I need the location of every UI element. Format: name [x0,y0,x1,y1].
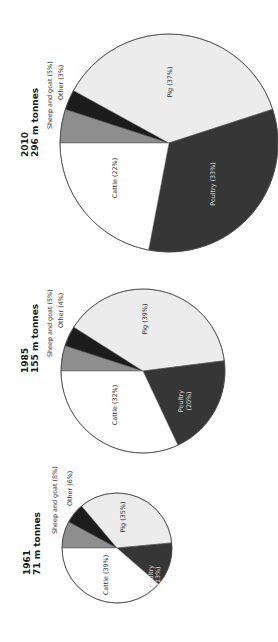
label-pig-1985: Pig (39%) [141,304,149,335]
chart-title-total-2010: 296 m tonnes [30,88,40,157]
label-pig-2010: Pig (37%) [166,67,174,98]
label-poultry-1985-line2: (20%) [185,391,193,410]
pie-chart-1985: 1985 155 m tonnes Sheep and goat (5%) Ot… [20,289,225,453]
label-other-1961: Other (6%) [66,471,74,506]
chart-title-total-1985: 155 m tonnes [30,304,40,373]
chart-title-year-2010: 2010 [20,132,30,157]
label-poultry-2010: Poultry (33%) [209,162,217,206]
label-sheep-goat-1961: Sheep and goat (8%) [51,466,59,534]
chart-title-year-1985: 1985 [20,348,30,373]
meat-production-pie-figure: 2010 296 m tonnes Sheep and goat (5%) Ot… [0,0,278,642]
label-other-2010: Other (3%) [57,65,65,100]
pie-chart-2010: 2010 296 m tonnes Sheep and goat (5%) Ot… [20,34,278,252]
pie-chart-1961: 1961 71 m tonnes Sheep and goat (8%) Oth… [22,466,172,603]
label-other-1985: Other (4%) [57,293,65,328]
chart-title-total-1961: 71 m tonnes [32,512,42,575]
label-poultry-1961-line2: (13%) [154,566,162,585]
label-cattle-1961: Cattle (39%) [102,555,110,595]
label-sheep-goat-1985: Sheep and goat (5%) [46,289,54,357]
label-cattle-2010: Cattle (22%) [111,158,119,198]
label-cattle-1985: Cattle (32%) [111,385,119,425]
label-sheep-goat-2010: Sheep and goat (5%) [46,61,54,129]
label-pig-1961: Pig (35%) [119,502,127,533]
chart-title-year-1961: 1961 [22,550,32,575]
label-poultry-1985-line1: Poultry [177,390,185,412]
